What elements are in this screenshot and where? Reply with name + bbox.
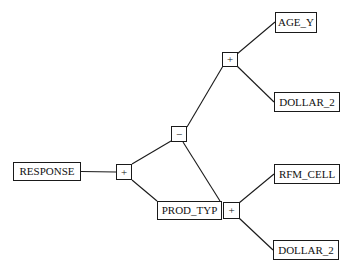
- node-response: RESPONSE: [13, 162, 81, 181]
- node-rfm-cell: RFM_CELL: [274, 164, 340, 184]
- node-label: RESPONSE: [19, 166, 74, 177]
- edge-op-upper-age-y: [237, 22, 275, 54]
- edge-op-mid-op-upper: [187, 66, 223, 127]
- node-label: PROD_TYP: [162, 205, 218, 216]
- edge-op-lower-rfm-cell: [239, 174, 274, 203]
- edge-response-op-root: [81, 172, 116, 173]
- node-label: DOLLAR_2: [278, 245, 334, 256]
- node-label: DOLLAR_2: [279, 97, 335, 108]
- node-dollar-2-upper: DOLLAR_2: [274, 92, 340, 112]
- operator-plus-root: +: [116, 164, 132, 180]
- operator-plus-upper: +: [222, 52, 238, 67]
- edge-op-root-prod-typ: [132, 180, 157, 201]
- operator-plus-lower: +: [223, 202, 240, 219]
- edge-op-upper-dollar-2-upper: [237, 66, 274, 102]
- edge-op-lower-dollar-2-lower: [239, 218, 273, 250]
- node-age-y: AGE_Y: [275, 12, 317, 33]
- edge-op-root-op-mid: [132, 141, 171, 164]
- node-dollar-2-lower: DOLLAR_2: [273, 240, 339, 260]
- node-prod-typ: PROD_TYP: [157, 201, 222, 220]
- plus-icon: +: [227, 54, 233, 65]
- node-label: AGE_Y: [278, 17, 314, 28]
- plus-icon: +: [228, 205, 234, 216]
- operator-minus-mid: −: [171, 126, 187, 142]
- plus-icon: +: [121, 167, 127, 178]
- node-label: RFM_CELL: [279, 169, 335, 180]
- minus-icon: −: [176, 129, 182, 140]
- edge-op-mid-op-lower: [183, 142, 220, 201]
